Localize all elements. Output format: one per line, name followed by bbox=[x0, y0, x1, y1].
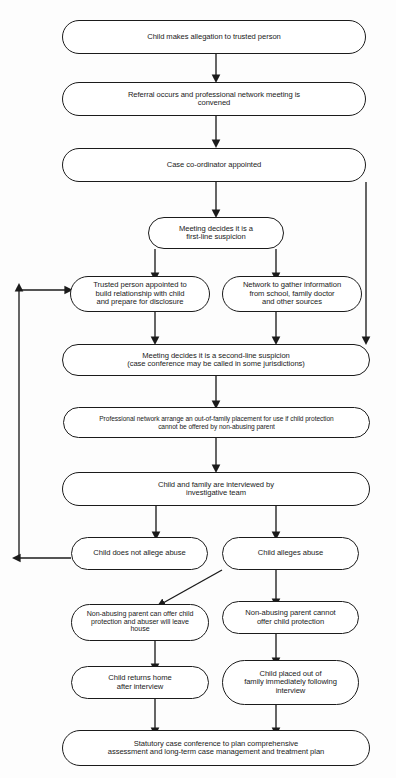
node-label: Network to gather information from schoo… bbox=[243, 281, 341, 307]
node-network-gather-information[interactable]: Network to gather information from schoo… bbox=[222, 276, 362, 312]
node-label: Meeting decides it is a first-line suspi… bbox=[179, 225, 253, 242]
node-label: Child placed out of family immediately f… bbox=[244, 670, 337, 696]
node-referral-occurs[interactable]: Referral occurs and professional network… bbox=[62, 82, 366, 116]
node-child-does-not-allege-abuse[interactable]: Child does not allege abuse bbox=[71, 537, 208, 570]
node-label: Child returns home after interview bbox=[108, 674, 171, 691]
node-professional-network-placement[interactable]: Professional network arrange an out-of-f… bbox=[63, 407, 370, 438]
node-label: Statutory case conference to plan compre… bbox=[108, 740, 325, 757]
node-child-family-interviewed[interactable]: Child and family are interviewed by inve… bbox=[62, 472, 370, 506]
node-label: Meeting decides it is a second-line susp… bbox=[127, 352, 305, 369]
node-label: Child and family are interviewed by inve… bbox=[158, 481, 274, 498]
node-trusted-person-appointed[interactable]: Trusted person appointed to build relati… bbox=[70, 276, 210, 312]
edge-n11-n12-diagonal bbox=[163, 570, 222, 603]
node-label: Case co-ordinator appointed bbox=[167, 161, 261, 170]
node-case-coordinator-appointed[interactable]: Case co-ordinator appointed bbox=[62, 148, 366, 182]
node-child-placed-out-of-family[interactable]: Child placed out of family immediately f… bbox=[222, 660, 359, 705]
node-label: Non-abusing parent cannot offer child pr… bbox=[245, 609, 335, 626]
node-child-returns-home[interactable]: Child returns home after interview bbox=[71, 666, 209, 699]
node-meeting-second-line-suspicion[interactable]: Meeting decides it is a second-line susp… bbox=[62, 344, 370, 376]
node-label: Trusted person appointed to build relati… bbox=[93, 281, 186, 307]
node-label: Professional network arrange an out-of-f… bbox=[99, 415, 333, 430]
node-label: Child does not allege abuse bbox=[93, 549, 185, 558]
node-label: Child makes allegation to trusted person bbox=[147, 33, 281, 42]
node-parent-can-offer-protection[interactable]: Non-abusing parent can offer child prote… bbox=[71, 604, 209, 641]
node-child-alleges-abuse[interactable]: Child alleges abuse bbox=[222, 537, 359, 570]
node-label: Non-abusing parent can offer child prote… bbox=[87, 611, 194, 635]
node-meeting-first-line-suspicion[interactable]: Meeting decides it is a first-line suspi… bbox=[148, 217, 284, 249]
node-statutory-case-conference[interactable]: Statutory case conference to plan compre… bbox=[62, 730, 370, 766]
node-child-makes-allegation[interactable]: Child makes allegation to trusted person bbox=[62, 20, 366, 54]
node-label: Referral occurs and professional network… bbox=[128, 91, 300, 108]
node-label: Child alleges abuse bbox=[258, 549, 323, 558]
flowchart-canvas: Child makes allegation to trusted person… bbox=[0, 0, 396, 778]
node-parent-cannot-offer-protection[interactable]: Non-abusing parent cannot offer child pr… bbox=[222, 601, 359, 634]
